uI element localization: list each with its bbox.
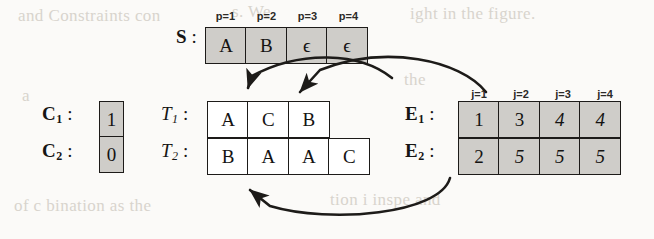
stack-cell[interactable]: B [245,27,287,64]
stack-label-colon: : [192,26,197,47]
ghost-text-line1: and Constraints con [18,6,161,26]
encoding-1-cell[interactable]: 1 [458,101,500,138]
encoding-2-cell[interactable]: 2 [458,138,500,175]
tape-1-cell[interactable]: B [288,101,330,138]
counter-1-label: C1: [42,103,73,127]
encoding-index-label-3: j=3 [542,88,584,100]
stack-cell[interactable]: ϵ [286,27,328,64]
encoding-index-label-2: j=2 [500,88,542,100]
stack-cell[interactable]: A [205,27,247,64]
stack-cell[interactable]: ϵ [326,27,368,64]
tape-2-label-symbol: T [161,140,172,161]
tape-1-cells: A C B [207,101,328,138]
encoding-1-cell[interactable]: 4 [539,101,581,138]
counter-2-label-symbol: C [42,140,56,161]
tape-2-label: T2: [161,140,188,164]
tape-2-label-subscript: 2 [172,149,178,163]
ghost-text-line6: of c bination as the [14,196,151,216]
encoding-2-cell[interactable]: 5 [498,138,540,175]
counter-2-label-subscript: 2 [56,149,62,163]
tape-2-cell[interactable]: C [328,138,370,175]
encoding2-to-tape2-arrow [250,178,450,215]
encoding-1-label-subscript: 1 [418,112,424,126]
encoding-index-label-1: j=1 [458,88,500,100]
encoding-1-cells: 1 3 4 4 [458,101,620,138]
tape-1-cell[interactable]: A [207,101,249,138]
encoding-2-label-symbol: E [405,140,418,161]
counter-2-label: C2: [42,140,73,164]
counter-1-cell[interactable]: 1 [99,101,124,138]
stack-index-label-3: p=3 [287,10,328,22]
ghost-text-line4: a [22,86,30,106]
encoding-1-label: E1: [405,103,434,127]
counter-1-label-colon: : [67,103,72,124]
encoding-2-label-colon: : [429,140,434,161]
tape-1-label-colon: : [183,103,188,124]
encoding-2-cell[interactable]: 5 [579,138,621,175]
tape-1-label: T1: [161,103,188,127]
counter-cells: 1 0 [99,101,124,172]
counter-1-label-symbol: C [42,103,56,124]
stack-index-label-4: p=4 [328,10,369,22]
stack-cells: A B ϵ ϵ [205,27,367,64]
tape-1-cell[interactable]: C [247,101,289,138]
counter-1-label-subscript: 1 [56,112,62,126]
tape-2-label-colon: : [183,140,188,161]
counter-2-cell[interactable]: 0 [99,136,124,173]
encoding-2-label-subscript: 2 [418,149,424,163]
encoding-1-label-colon: : [429,103,434,124]
tape-2-cell[interactable]: B [207,138,249,175]
encoding-index-label-4: j=4 [584,88,626,100]
encoding-1-label-symbol: E [405,103,418,124]
tape-2-cells: B A A C [207,138,369,175]
encoding-2-cells: 2 5 5 5 [458,138,620,175]
stack-label-symbol: S [176,26,187,47]
encoding-1-cell[interactable]: 4 [579,101,621,138]
encoding-2-label: E2: [405,140,434,164]
stack-index-label-2: p=2 [246,10,287,22]
tape-2-cell[interactable]: A [288,138,330,175]
ghost-text-line7: tion i inspe and [330,190,441,210]
abstract-machine-state-figure: and Constraints con s. We ight in the fi… [0,0,654,239]
ghost-text-line3: ight in the figure. [410,4,536,24]
tape-1-label-subscript: 1 [172,112,178,126]
tape-1-label-symbol: T [161,103,172,124]
stack-label: S: [176,26,197,48]
encoding-2-cell[interactable]: 5 [539,138,581,175]
counter-2-label-colon: : [67,140,72,161]
tape-2-cell[interactable]: A [247,138,289,175]
stack-index-label-1: p=1 [205,10,246,22]
encoding-1-cell[interactable]: 3 [498,101,540,138]
ghost-text-line5: the [404,70,426,90]
